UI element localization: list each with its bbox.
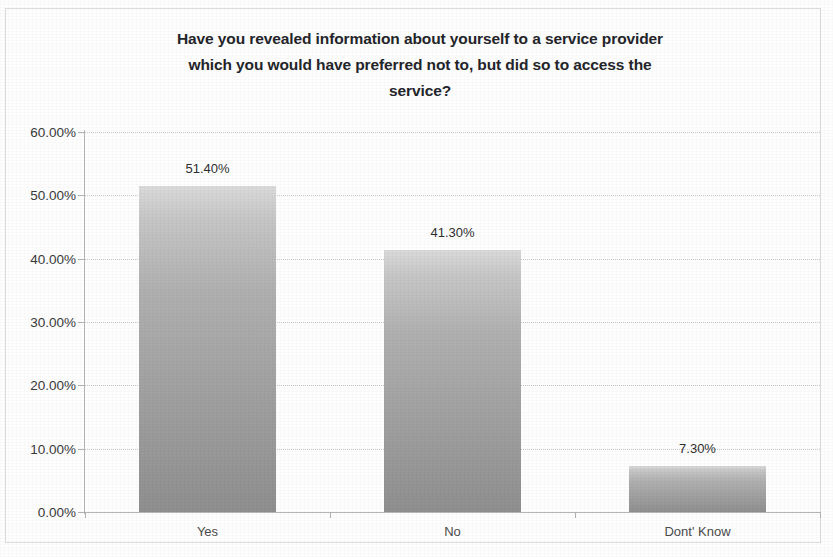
y-axis-tick-label: 30.00% [4, 315, 76, 330]
bar-yes [139, 186, 276, 512]
x-axis-tick [820, 512, 821, 518]
y-axis-tick-label: 0.00% [4, 505, 76, 520]
y-axis-tick-label: 50.00% [4, 188, 76, 203]
x-axis-category-label: Yes [138, 524, 278, 539]
y-axis-tick-label: 20.00% [4, 378, 76, 393]
bar-value-label: 51.40% [148, 161, 268, 176]
y-axis-tick [78, 132, 85, 133]
bar-value-label: 7.30% [638, 441, 758, 456]
bar-value-label: 41.30% [393, 225, 513, 240]
y-axis-labels: 0.00%10.00%20.00%30.00%40.00%50.00%60.00… [0, 132, 76, 512]
x-axis-category-label: Dont' Know [628, 524, 768, 539]
x-axis-tick [575, 512, 576, 518]
y-axis-tick-label: 40.00% [4, 251, 76, 266]
y-axis-tick-label: 60.00% [4, 125, 76, 140]
y-axis-tick [78, 385, 85, 386]
y-axis-tick [78, 449, 85, 450]
y-axis-tick [78, 322, 85, 323]
y-axis-tick [78, 512, 85, 513]
bar-dont-know [629, 466, 766, 512]
chart-title: Have you revealed information about your… [62, 26, 778, 104]
x-axis-tick [330, 512, 331, 518]
chart-title-line-1: Have you revealed information about your… [62, 26, 778, 52]
y-axis-tick [78, 195, 85, 196]
x-axis-tick [85, 512, 86, 518]
gridline [85, 132, 820, 133]
chart-title-line-2: which you would have preferred not to, b… [62, 52, 778, 78]
y-axis-tick [78, 259, 85, 260]
gridline [85, 512, 820, 513]
bar-no [384, 250, 521, 512]
chart-figure: Have you revealed information about your… [0, 0, 833, 557]
chart-title-line-3: service? [62, 78, 778, 104]
y-axis-tick-label: 10.00% [4, 441, 76, 456]
x-axis-category-label: No [383, 524, 523, 539]
